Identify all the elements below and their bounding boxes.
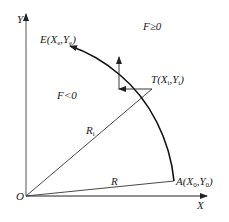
origin-label: O bbox=[16, 191, 24, 202]
arc-path bbox=[70, 46, 174, 181]
region-inside-label: F<0 bbox=[57, 90, 77, 101]
region-outside-label: F≥0 bbox=[143, 21, 161, 32]
radius-ri-line bbox=[26, 89, 152, 196]
y-axis-label: Y bbox=[17, 14, 23, 25]
radius-ri-label: Ri bbox=[86, 125, 95, 138]
point-t-label: T(Xi,Yi) bbox=[151, 74, 184, 87]
radius-r-label: R bbox=[111, 176, 118, 187]
point-e-label: E(Xe,Ye) bbox=[40, 34, 76, 47]
radius-r-line bbox=[26, 181, 174, 196]
point-a-label: A(X0,Y0) bbox=[176, 176, 213, 189]
x-axis-label: X bbox=[197, 200, 204, 211]
